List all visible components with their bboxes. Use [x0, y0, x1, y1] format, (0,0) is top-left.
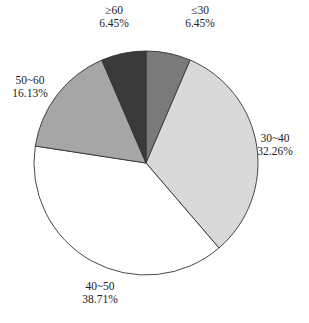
slice-category: 50~60: [15, 74, 44, 86]
slice-label: 50~6016.13%: [12, 74, 48, 99]
slice-label: 30~4032.26%: [257, 132, 293, 157]
pie-slices: [34, 51, 258, 275]
slice-percent: 16.13%: [12, 87, 48, 99]
slice-category: ≤30: [191, 4, 209, 16]
slice-percent: 38.71%: [82, 293, 118, 305]
slice-percent: 6.45%: [185, 17, 215, 29]
slice-category: ≥60: [105, 4, 123, 16]
pie-chart: ≤306.45%30~4032.26%40~5038.71%50~6016.13…: [0, 0, 309, 323]
slice-label: ≤306.45%: [185, 4, 215, 29]
slice-label: ≥606.45%: [99, 4, 129, 29]
slice-percent: 6.45%: [99, 17, 129, 29]
slice-label: 40~5038.71%: [82, 280, 118, 305]
slice-percent: 32.26%: [257, 145, 293, 157]
slice-category: 30~40: [260, 132, 289, 144]
slice-category: 40~50: [85, 280, 114, 292]
